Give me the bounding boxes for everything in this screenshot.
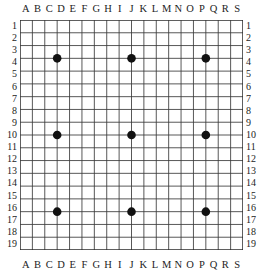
row-label-left-6: 6 <box>11 81 18 93</box>
go-board-svg <box>20 20 243 250</box>
row-label-right-1: 1 <box>245 20 252 32</box>
row-label-left-15: 15 <box>6 190 18 202</box>
column-label-bottom-Q: Q <box>208 258 220 272</box>
row-label-left-3: 3 <box>11 44 18 56</box>
row-label-right-5: 5 <box>245 68 252 80</box>
row-label-left-12: 12 <box>6 153 18 165</box>
row-label-right-6: 6 <box>245 81 252 93</box>
star-point-P16[interactable] <box>202 207 211 216</box>
column-label-top-B: B <box>32 2 44 16</box>
row-label-right-12: 12 <box>245 153 257 165</box>
row-label-left-2: 2 <box>11 32 18 44</box>
column-label-top-I: I <box>114 2 126 16</box>
row-label-right-3: 3 <box>245 44 252 56</box>
go-board-grid[interactable] <box>20 20 243 250</box>
row-label-right-11: 11 <box>245 141 257 153</box>
row-label-right-15: 15 <box>245 190 257 202</box>
column-label-top-K: K <box>137 2 149 16</box>
column-label-top-G: G <box>90 2 102 16</box>
row-label-left-19: 19 <box>6 238 18 250</box>
row-label-right-10: 10 <box>245 129 257 141</box>
row-label-left-14: 14 <box>6 177 18 189</box>
column-label-bottom-F: F <box>79 258 91 272</box>
row-label-left-8: 8 <box>11 105 18 117</box>
column-label-bottom-H: H <box>102 258 114 272</box>
row-label-left-1: 1 <box>11 20 18 32</box>
column-label-bottom-M: M <box>161 258 173 272</box>
row-labels-right: 12345678910111213141516171819 <box>245 20 262 250</box>
row-label-right-8: 8 <box>245 105 252 117</box>
star-point-J4[interactable] <box>127 54 136 63</box>
go-board-diagram: ABCDEFGHIJKLMNOPQRS 12345678910111213141… <box>0 0 265 280</box>
column-label-bottom-J: J <box>126 258 138 272</box>
row-label-left-13: 13 <box>6 165 18 177</box>
column-label-top-F: F <box>79 2 91 16</box>
column-label-bottom-I: I <box>114 258 126 272</box>
star-point-J16[interactable] <box>127 207 136 216</box>
row-label-left-9: 9 <box>11 117 18 129</box>
row-labels-left: 12345678910111213141516171819 <box>1 20 18 250</box>
row-label-left-10: 10 <box>6 129 18 141</box>
column-label-top-R: R <box>219 2 231 16</box>
column-label-top-L: L <box>149 2 161 16</box>
column-label-top-C: C <box>43 2 55 16</box>
column-label-bottom-P: P <box>196 258 208 272</box>
row-label-right-17: 17 <box>245 214 257 226</box>
column-label-bottom-L: L <box>149 258 161 272</box>
row-label-right-13: 13 <box>245 165 257 177</box>
row-label-left-7: 7 <box>11 93 18 105</box>
row-label-right-16: 16 <box>245 202 257 214</box>
star-point-P10[interactable] <box>202 131 211 140</box>
row-label-right-19: 19 <box>245 238 257 250</box>
row-label-right-4: 4 <box>245 56 252 68</box>
column-label-bottom-D: D <box>55 258 67 272</box>
row-label-left-4: 4 <box>11 56 18 68</box>
column-label-top-E: E <box>67 2 79 16</box>
star-point-J10[interactable] <box>127 131 136 140</box>
star-point-D4[interactable] <box>53 54 62 63</box>
column-label-bottom-N: N <box>173 258 185 272</box>
row-label-right-9: 9 <box>245 117 252 129</box>
column-label-bottom-B: B <box>32 258 44 272</box>
column-label-bottom-C: C <box>43 258 55 272</box>
row-label-right-18: 18 <box>245 226 257 238</box>
column-label-top-J: J <box>126 2 138 16</box>
row-label-right-7: 7 <box>245 93 252 105</box>
column-label-bottom-A: A <box>20 258 32 272</box>
star-point-D16[interactable] <box>53 207 62 216</box>
column-label-bottom-O: O <box>184 258 196 272</box>
column-label-top-N: N <box>173 2 185 16</box>
column-label-top-D: D <box>55 2 67 16</box>
column-label-top-P: P <box>196 2 208 16</box>
column-label-bottom-R: R <box>219 258 231 272</box>
column-label-top-A: A <box>20 2 32 16</box>
column-label-bottom-S: S <box>231 258 243 272</box>
row-label-left-17: 17 <box>6 214 18 226</box>
row-label-right-14: 14 <box>245 177 257 189</box>
column-label-bottom-G: G <box>90 258 102 272</box>
column-label-top-H: H <box>102 2 114 16</box>
column-labels-top: ABCDEFGHIJKLMNOPQRS <box>20 2 243 16</box>
column-label-bottom-K: K <box>137 258 149 272</box>
row-label-left-5: 5 <box>11 68 18 80</box>
column-label-top-M: M <box>161 2 173 16</box>
column-label-top-S: S <box>231 2 243 16</box>
star-point-D10[interactable] <box>53 131 62 140</box>
column-label-top-Q: Q <box>208 2 220 16</box>
row-label-left-18: 18 <box>6 226 18 238</box>
row-label-left-16: 16 <box>6 202 18 214</box>
column-label-top-O: O <box>184 2 196 16</box>
star-point-P4[interactable] <box>202 54 211 63</box>
column-labels-bottom: ABCDEFGHIJKLMNOPQRS <box>20 258 243 272</box>
column-label-bottom-E: E <box>67 258 79 272</box>
row-label-left-11: 11 <box>6 141 18 153</box>
row-label-right-2: 2 <box>245 32 252 44</box>
